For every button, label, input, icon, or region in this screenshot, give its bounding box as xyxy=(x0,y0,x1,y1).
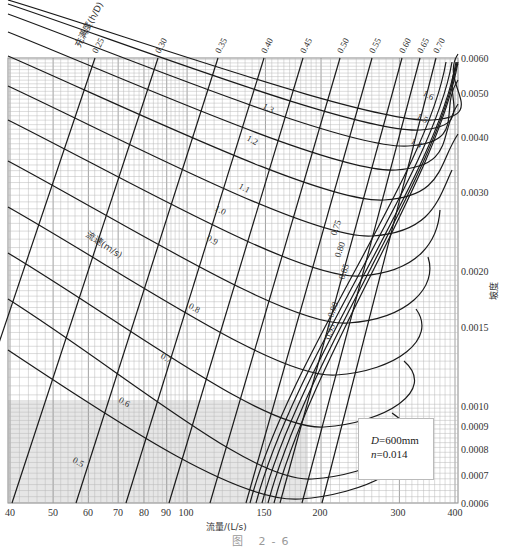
y-tick-label: 0.0060 xyxy=(461,53,489,64)
velocity-label: 1.6 xyxy=(421,88,436,102)
y-tick-label: 0.0007 xyxy=(461,470,489,481)
y-tick-label: 0.0050 xyxy=(461,88,489,99)
x-tick-label: 90 xyxy=(161,507,171,518)
y-tick-label: 0.0020 xyxy=(461,266,489,277)
filling-ratio-label: 0.80 xyxy=(332,240,347,259)
velocity-label: 0.9 xyxy=(205,233,220,247)
x-tick-label: 150 xyxy=(257,507,272,518)
y-axis-title: 坡度 xyxy=(488,282,499,300)
y-tick-label: 0.0010 xyxy=(461,401,489,412)
filling-ratio-label: 0.75 xyxy=(328,218,343,237)
filling-ratio-label: 0.70 xyxy=(431,36,447,55)
filling-ratio-labels: 0.250.300.350.400.450.500.550.600.650.70… xyxy=(90,36,447,341)
y-tick-label: 0.0040 xyxy=(461,132,489,143)
x-axis-ticks: 405060708090100150200300400 xyxy=(5,507,463,518)
y-tick-label: 0.0009 xyxy=(461,421,489,432)
filling-ratio-label: 0.55 xyxy=(367,36,383,55)
x-axis-title: 流量/(L/s) xyxy=(206,521,247,532)
legend-roughness: n=0.014 xyxy=(371,447,433,461)
roughness-value: =0.014 xyxy=(377,448,408,460)
diameter-value: =600mm xyxy=(379,434,419,446)
velocity-curve xyxy=(8,4,458,130)
filling-ratio-label: 0.45 xyxy=(298,36,314,55)
velocity-label: 1.1 xyxy=(237,181,252,195)
filling-ratio-label: 0.60 xyxy=(397,36,413,55)
y-axis-ticks: 0.00600.00500.00400.00300.00200.00150.00… xyxy=(461,53,489,509)
filling-ratio-label: 0.65 xyxy=(415,36,431,55)
y-tick-label: 0.0030 xyxy=(461,187,489,198)
figure-caption: 图 2-6 xyxy=(232,532,294,548)
x-tick-label: 70 xyxy=(113,507,123,518)
filling-ratio-label: 0.25 xyxy=(90,36,106,55)
filling-ratio-label: 0.50 xyxy=(335,36,351,55)
filling-ratio-label: 0.35 xyxy=(213,36,229,55)
x-tick-label: 200 xyxy=(313,507,328,518)
filling-ratio-label: 0.40 xyxy=(259,36,275,55)
y-tick-label: 0.0015 xyxy=(461,322,489,333)
x-tick-label: 300 xyxy=(391,507,406,518)
velocity-label: 1.2 xyxy=(245,133,260,147)
x-tick-label: 40 xyxy=(5,507,15,518)
y-tick-label: 0.0008 xyxy=(461,444,489,455)
legend-diameter: D=600mm xyxy=(371,433,433,447)
x-tick-label: 50 xyxy=(48,507,58,518)
x-tick-label: 80 xyxy=(139,507,149,518)
diameter-symbol: D xyxy=(371,434,379,446)
pipe-parameters-legend: D=600mm n=0.014 xyxy=(358,418,434,480)
filling-ratio-label: 0.30 xyxy=(153,36,169,55)
velocity-label: 0.8 xyxy=(187,301,202,315)
x-tick-label: 60 xyxy=(83,507,93,518)
filling-ratio-label: 0.85 xyxy=(336,262,351,281)
velocity-curve xyxy=(8,56,458,200)
y-tick-label: 0.0006 xyxy=(461,498,489,509)
x-tick-label: 100 xyxy=(179,507,194,518)
